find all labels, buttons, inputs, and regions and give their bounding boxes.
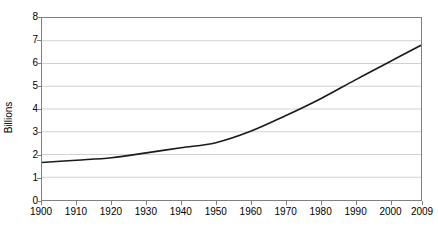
series-lines	[42, 45, 421, 162]
y-tick-mark	[37, 132, 41, 133]
x-tick-label: 1960	[240, 206, 262, 218]
y-tick-label: 1	[16, 172, 38, 184]
plot-svg	[42, 18, 421, 200]
x-tick-mark	[321, 201, 322, 205]
y-tick-mark	[37, 178, 41, 179]
x-tick-label: 2009	[411, 206, 433, 218]
x-tick-label: 1950	[205, 206, 227, 218]
x-tick-mark	[216, 201, 217, 205]
y-tick-label: 8	[16, 11, 38, 23]
y-tick-mark	[37, 86, 41, 87]
y-tick-label: 5	[16, 80, 38, 92]
y-axis-tick-labels: 876543210	[16, 11, 38, 201]
y-tick-label: 6	[16, 57, 38, 69]
x-tick-mark	[146, 201, 147, 205]
x-tick-label: 1990	[344, 206, 366, 218]
x-tick-mark	[286, 201, 287, 205]
series-line	[42, 45, 421, 162]
plot-area	[41, 17, 422, 201]
gridlines	[42, 41, 421, 178]
y-tick-mark	[37, 40, 41, 41]
x-tick-mark	[181, 201, 182, 205]
x-tick-mark	[41, 201, 42, 205]
x-tick-label: 1930	[135, 206, 157, 218]
y-tick-mark	[37, 109, 41, 110]
y-tick-label: 2	[16, 149, 38, 161]
x-axis-tick-labels: 1900191019201930194019501960197019801990…	[41, 206, 422, 222]
x-tick-mark	[251, 201, 252, 205]
y-tick-mark	[37, 63, 41, 64]
y-tick-label: 4	[16, 103, 38, 115]
x-tick-label: 1910	[65, 206, 87, 218]
y-axis-title: Billions	[0, 0, 16, 235]
y-tick-label: 7	[16, 34, 38, 46]
x-tick-mark	[391, 201, 392, 205]
y-tick-mark	[37, 155, 41, 156]
x-tick-label: 1900	[30, 206, 52, 218]
x-tick-mark	[111, 201, 112, 205]
x-tick-label: 2000	[379, 206, 401, 218]
x-tick-label: 1920	[100, 206, 122, 218]
x-tick-label: 1980	[310, 206, 332, 218]
x-tick-label: 1970	[275, 206, 297, 218]
x-tick-label: 1940	[170, 206, 192, 218]
x-tick-mark	[356, 201, 357, 205]
x-tick-mark	[422, 201, 423, 205]
population-line-chart: Billions 876543210 190019101920193019401…	[0, 0, 438, 235]
y-tick-label: 3	[16, 126, 38, 138]
x-tick-mark	[76, 201, 77, 205]
y-tick-mark	[37, 17, 41, 18]
